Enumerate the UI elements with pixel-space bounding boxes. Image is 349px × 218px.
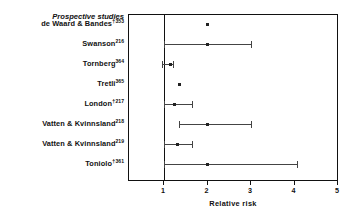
reference-number: 219 bbox=[116, 138, 125, 144]
x-axis-tick-label: 3 bbox=[248, 186, 252, 195]
x-axis-tick bbox=[250, 181, 251, 185]
forest-row-marker bbox=[129, 159, 337, 170]
x-axis-tick-label: 5 bbox=[335, 186, 339, 195]
point-estimate-marker bbox=[206, 23, 209, 26]
ci-lower-cap bbox=[162, 61, 163, 68]
study-label: Tornberg364 bbox=[83, 57, 124, 68]
x-axis-tick bbox=[294, 181, 295, 185]
point-estimate-marker bbox=[176, 143, 179, 146]
study-name: Toniolo bbox=[85, 159, 112, 168]
reference-number: 217 bbox=[116, 98, 125, 104]
ci-upper-cap bbox=[192, 101, 193, 108]
study-name: Vatten & Kvinnsland bbox=[42, 139, 115, 148]
confidence-interval-bar bbox=[164, 164, 297, 165]
study-label: Swanson216 bbox=[82, 37, 124, 48]
forest-row-marker bbox=[129, 119, 337, 130]
ci-lower-cap bbox=[164, 41, 165, 48]
reference-number: 365 bbox=[116, 78, 125, 84]
study-name: Vatten & Kvinnsland bbox=[42, 119, 115, 128]
ci-upper-cap bbox=[251, 41, 252, 48]
forest-row-marker bbox=[129, 39, 337, 50]
reference-number: 361 bbox=[116, 158, 125, 164]
study-name: de Waard & Bandes bbox=[41, 19, 112, 28]
point-estimate-marker bbox=[206, 163, 209, 166]
point-estimate-marker bbox=[169, 63, 172, 66]
study-name: Tornberg bbox=[83, 59, 116, 68]
ci-lower-cap bbox=[164, 101, 165, 108]
ci-lower-cap bbox=[164, 141, 165, 148]
reference-number: 216 bbox=[116, 38, 125, 44]
x-axis-tick-label: 2 bbox=[205, 186, 209, 195]
forest-row-marker bbox=[129, 99, 337, 110]
study-name: Swanson bbox=[82, 39, 115, 48]
confidence-interval-bar bbox=[164, 104, 192, 105]
forest-row-marker bbox=[129, 59, 337, 70]
forest-row-marker bbox=[129, 19, 337, 30]
forest-row-marker bbox=[129, 139, 337, 150]
study-label: Tretli365 bbox=[97, 77, 124, 88]
reference-number: 218 bbox=[116, 118, 125, 124]
x-axis-tick bbox=[337, 181, 338, 185]
plot-panel bbox=[128, 14, 338, 181]
x-axis-tick-label: 1 bbox=[161, 186, 165, 195]
ci-upper-cap bbox=[192, 141, 193, 148]
study-label: Vatten & Kvinnsland218 bbox=[42, 117, 124, 128]
study-label: Toniolo†361 bbox=[85, 157, 124, 168]
forest-row-marker bbox=[129, 79, 337, 90]
point-estimate-marker bbox=[206, 123, 209, 126]
study-name: Tretli bbox=[97, 79, 115, 88]
x-axis-title: Relative risk bbox=[128, 199, 338, 208]
ci-upper-cap bbox=[173, 61, 174, 68]
ci-upper-cap bbox=[251, 121, 252, 128]
x-axis: Relative risk 12345 bbox=[128, 181, 338, 218]
point-estimate-marker bbox=[178, 83, 181, 86]
reference-number: 353 bbox=[116, 18, 125, 24]
reference-number: 364 bbox=[116, 58, 125, 64]
x-axis-tick bbox=[207, 181, 208, 185]
x-axis-tick-label: 4 bbox=[292, 186, 296, 195]
study-label-column: Prospective studies de Waard & Bandes†35… bbox=[0, 0, 128, 218]
ci-upper-cap bbox=[297, 161, 298, 168]
ci-lower-cap bbox=[164, 161, 165, 168]
ci-lower-cap bbox=[179, 121, 180, 128]
study-label: Vatten & Kvinnsland219 bbox=[42, 137, 124, 148]
x-axis-tick bbox=[163, 181, 164, 185]
study-label: London†217 bbox=[84, 97, 124, 108]
confidence-interval-bar bbox=[179, 124, 251, 125]
study-label: de Waard & Bandes†353 bbox=[41, 17, 124, 28]
point-estimate-marker bbox=[206, 43, 209, 46]
point-estimate-marker bbox=[173, 103, 176, 106]
forest-plot-figure: Prospective studies de Waard & Bandes†35… bbox=[0, 0, 349, 218]
study-name: London bbox=[84, 99, 112, 108]
